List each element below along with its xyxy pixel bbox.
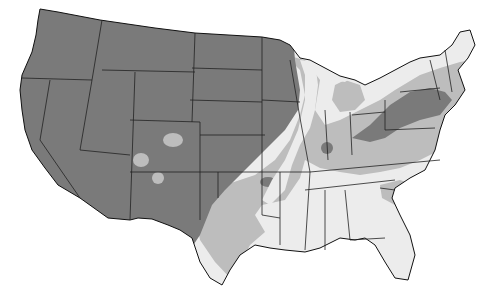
zone-medium-utah-spot <box>133 153 149 167</box>
zone-medium-colorado-spot <box>163 133 183 147</box>
us-zone-map <box>0 0 485 291</box>
zone-medium-nm-spot <box>152 172 164 184</box>
shaded-zones <box>0 0 485 291</box>
